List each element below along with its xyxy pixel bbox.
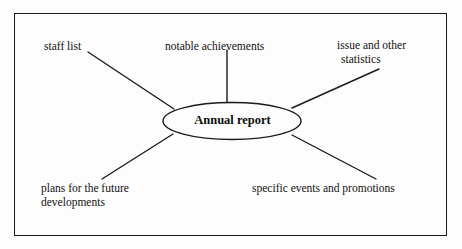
diagram-page: Annual report staff list notable achieve… [0,0,462,249]
center-node-label: Annual report [163,113,302,128]
branch-label-specific-events-and-promotions: specific events and promotions [252,181,395,195]
branch-label-issue-and-other-statistics: issue and other statistics [337,38,406,66]
branch-label-line: notable achievements [165,40,264,52]
connector-staff-list [88,52,174,109]
branch-label-line: staff list [44,40,81,52]
branch-label-notable-achievements: notable achievements [165,39,264,53]
connector-specific-events-and-promotions [292,135,376,179]
connector-plans-for-the-future-developments [102,134,173,179]
branch-label-plans-for-the-future-developments: plans for the future developments [41,181,129,209]
branch-label-staff-list: staff list [44,39,81,53]
branch-label-line: developments [41,195,129,209]
branch-label-line: issue and other [337,39,406,51]
branch-label-line: specific events and promotions [252,182,395,194]
connector-issue-and-other-statistics [292,69,379,108]
branch-label-line: statistics [337,52,406,66]
branch-label-line: plans for the future [41,182,129,194]
